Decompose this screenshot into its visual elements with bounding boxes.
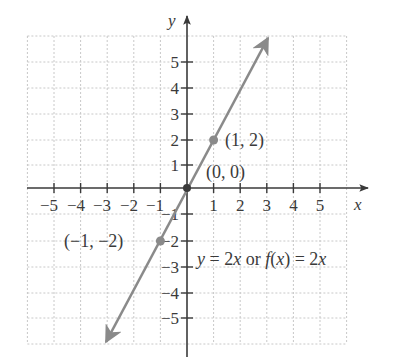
y-axis-label: y <box>166 11 176 30</box>
point-label-1-2: (1, 2) <box>225 130 264 151</box>
point-label-0-0: (0, 0) <box>206 162 245 183</box>
point-1-2 <box>209 136 218 145</box>
point-0-0 <box>183 184 191 192</box>
y-tick-label: 2 <box>171 131 180 150</box>
equation-label: y = 2x or f(x) = 2x <box>195 249 326 270</box>
x-tick-label: −2 <box>120 196 138 215</box>
axes <box>27 16 368 357</box>
x-tick-label: −3 <box>93 196 111 215</box>
x-tick-label: 3 <box>263 196 272 215</box>
x-axis-label: x <box>353 195 362 214</box>
x-tick-label: 4 <box>289 196 298 215</box>
x-tick-label: 5 <box>316 196 325 215</box>
coordinate-plane: −5 −4 −3 −2 −1 1 2 3 4 5 5 4 3 2 1 −1 −2… <box>0 0 395 364</box>
point-neg1-neg2 <box>156 237 165 246</box>
x-tick-label: −5 <box>40 196 58 215</box>
point-label-neg1-neg2: (−1, −2) <box>64 231 123 252</box>
x-tick-label: −4 <box>67 196 86 215</box>
y-tick-label: −4 <box>161 284 180 303</box>
y-tick-label: −3 <box>161 258 179 277</box>
y-tick-label: 5 <box>171 53 180 72</box>
x-tick-label: 2 <box>236 196 245 215</box>
y-tick-label: −5 <box>161 309 179 328</box>
y-tick-label: 1 <box>171 156 180 175</box>
y-tick-label: 4 <box>171 79 180 98</box>
y-tick-labels: 5 4 3 2 1 −1 −2 −3 −4 −5 <box>161 53 180 328</box>
x-tick-label: 1 <box>209 196 218 215</box>
y-tick-label: 3 <box>171 105 180 124</box>
